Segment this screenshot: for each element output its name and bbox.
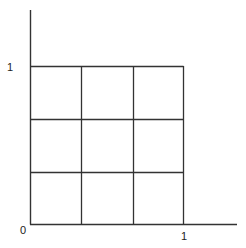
unit-grid-diagram: 1 0 1 <box>0 0 246 248</box>
grid <box>30 66 184 225</box>
origin-label: 0 <box>20 224 26 236</box>
y-tick-label: 1 <box>7 61 13 73</box>
x-tick-label: 1 <box>181 230 187 242</box>
